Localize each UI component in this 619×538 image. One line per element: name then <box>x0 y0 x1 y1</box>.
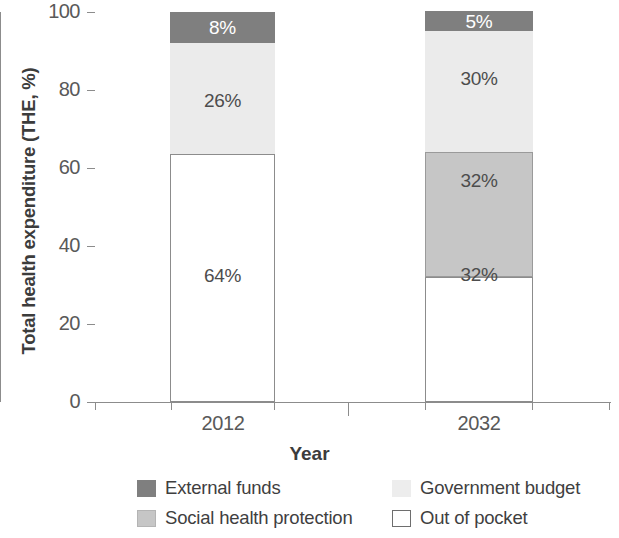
y-axis-line <box>0 12 1 402</box>
bar-2012-label-out-of-pocket: 64% <box>204 265 241 287</box>
y-tick-label-100: 100 <box>20 0 80 23</box>
y-tick-100 <box>87 12 95 13</box>
bar-2032-label-government-budget: 30% <box>460 68 497 90</box>
bar-2012-segment-out-of-pocket: 64% <box>170 154 275 402</box>
y-tick-label-40: 40 <box>20 234 80 257</box>
y-tick-60 <box>87 168 95 169</box>
x-tick-label-2012: 2012 <box>172 412 274 435</box>
bar-2012-label-external-funds: 8% <box>209 17 236 39</box>
bar-2032-segment-external-funds: 5% <box>425 11 533 32</box>
legend-item-out-of-pocket: Out of pocket <box>392 506 527 530</box>
x-tick-d <box>532 403 533 410</box>
x-tick-start <box>95 403 96 410</box>
legend-label-out-of-pocket: Out of pocket <box>420 507 527 529</box>
y-tick-label-20: 20 <box>20 312 80 335</box>
x-axis-title: Year <box>0 443 619 465</box>
legend-label-government-budget: Government budget <box>420 477 580 499</box>
bar-2032-segment-government-budget: 30% <box>425 31 533 152</box>
bar-2012-segment-external-funds: 8% <box>170 12 275 43</box>
bar-2012-label-government-budget: 26% <box>204 90 241 112</box>
legend-swatch-external-funds-icon <box>137 480 156 497</box>
legend-swatch-social-health-protection-icon <box>137 510 156 527</box>
legend: External funds Government budget Social … <box>137 476 607 532</box>
y-axis-title: Total health expenditure (THE, %) <box>18 11 40 411</box>
legend-label-external-funds: External funds <box>165 477 280 499</box>
x-tick-mid <box>348 403 349 416</box>
x-tick-end <box>609 403 610 410</box>
legend-swatch-government-budget-icon <box>392 480 411 497</box>
legend-item-social-health-protection: Social health protection <box>137 506 353 530</box>
legend-item-external-funds: External funds <box>137 476 280 500</box>
x-tick-a <box>171 403 172 410</box>
x-tick-label-2032: 2032 <box>424 412 534 435</box>
y-tick-80 <box>87 90 95 91</box>
stacked-bar-chart: Total health expenditure (THE, %) 100 80… <box>0 0 619 538</box>
y-tick-40 <box>87 246 95 247</box>
y-tick-20 <box>87 324 95 325</box>
y-tick-label-0: 0 <box>20 390 80 413</box>
y-tick-label-80: 80 <box>20 78 80 101</box>
y-tick-label-60: 60 <box>20 156 80 179</box>
x-axis-line <box>95 402 611 403</box>
bar-2032-segment-out-of-pocket: 32% <box>425 277 533 402</box>
bar-2032-segment-social-health-protection: 32% <box>425 152 533 277</box>
legend-label-social-health-protection: Social health protection <box>165 507 353 529</box>
legend-item-government-budget: Government budget <box>392 476 580 500</box>
bar-2012-segment-government-budget: 26% <box>170 43 275 154</box>
bar-2032-label-out-of-pocket: 32% <box>460 264 497 286</box>
y-tick-0 <box>87 402 95 403</box>
bar-2032-label-social-health-protection: 32% <box>460 170 497 192</box>
x-tick-b <box>274 403 275 410</box>
x-tick-c <box>425 403 426 410</box>
legend-swatch-out-of-pocket-icon <box>392 510 411 527</box>
bar-2032-label-external-funds: 5% <box>466 11 493 33</box>
